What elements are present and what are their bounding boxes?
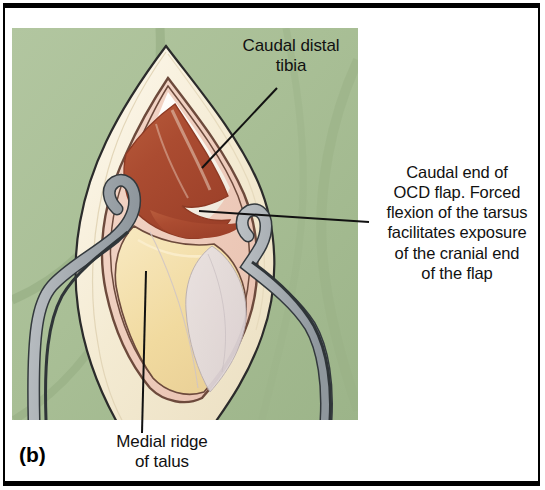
label-caudal-end-ocd-flap: Caudal end of OCD flap. Forced flexion o… (371, 162, 543, 283)
label-caudal-distal-tibia: Caudal distal tibia (196, 36, 386, 75)
label-medial-ridge-of-talus: Medial ridge of talus (86, 432, 238, 471)
figure-panel-b: Caudal distal tibia Caudal end of OCD fl… (0, 0, 545, 490)
panel-letter-b: (b) (19, 443, 46, 467)
